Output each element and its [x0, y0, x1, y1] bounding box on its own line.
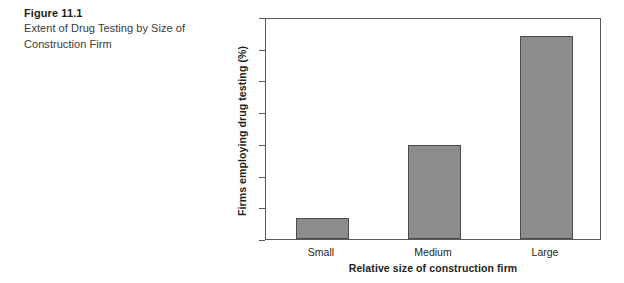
bar [408, 145, 461, 239]
plot-area [265, 18, 601, 240]
bar [520, 36, 573, 239]
y-axis-tick-mark [259, 240, 265, 241]
x-axis-tick-label: Large [532, 246, 559, 258]
x-axis-tick-label: Small [308, 246, 334, 258]
x-axis-title: Relative size of construction firm [265, 262, 601, 274]
x-axis-tick-label: Medium [414, 246, 451, 258]
bar [296, 218, 349, 239]
y-axis-tick-labels: 706050403020100 [0, 0, 265, 283]
bar-chart: Firms employing drug testing (%) 7060504… [0, 0, 624, 283]
